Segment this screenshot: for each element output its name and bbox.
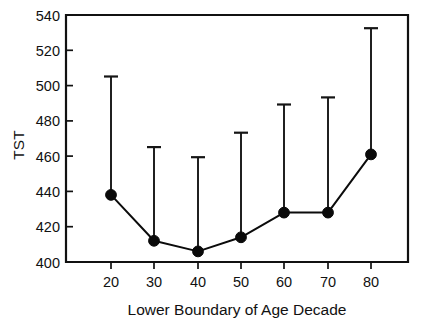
y-tick-label-420: 420 — [36, 219, 60, 235]
data-point-70[interactable] — [323, 207, 334, 218]
error-bar-50 — [234, 133, 248, 238]
x-tick-label-30: 30 — [146, 274, 162, 290]
x-tick-label-80: 80 — [363, 274, 379, 290]
data-point-30[interactable] — [149, 235, 160, 246]
y-tick-label-500: 500 — [36, 78, 60, 94]
error-bar-70 — [321, 97, 335, 212]
error-bar-20 — [104, 77, 118, 195]
x-tick-label-40: 40 — [190, 274, 206, 290]
y-tick-label-540: 540 — [36, 8, 60, 24]
y-tick-label-400: 400 — [36, 255, 60, 271]
x-tick-labels: 20 30 40 50 60 70 80 — [103, 274, 379, 290]
y-axis-title: TST — [10, 130, 27, 160]
plot-frame — [66, 15, 408, 262]
error-bars — [104, 28, 378, 251]
error-bar-40 — [191, 157, 205, 251]
plot-border — [66, 15, 408, 262]
error-bar-80 — [364, 28, 378, 154]
x-tick-label-50: 50 — [233, 274, 249, 290]
chart-figure: 540 520 500 480 460 440 420 400 20 30 40… — [0, 0, 424, 330]
y-tick-labels: 540 520 500 480 460 440 420 400 — [36, 8, 60, 271]
x-tick-label-60: 60 — [276, 274, 292, 290]
scatter-line-chart-with-error-bars: 540 520 500 480 460 440 420 400 20 30 40… — [0, 0, 424, 330]
y-tick-label-440: 440 — [36, 184, 60, 200]
data-point-20[interactable] — [106, 190, 117, 201]
x-axis-title: Lower Boundary of Age Decade — [128, 301, 347, 318]
data-point-80[interactable] — [366, 149, 377, 160]
x-tick-label-20: 20 — [103, 274, 119, 290]
y-tick-label-460: 460 — [36, 149, 60, 165]
y-tick-label-520: 520 — [36, 43, 60, 59]
data-point-40[interactable] — [193, 246, 204, 257]
error-bar-60 — [277, 105, 291, 213]
data-point-60[interactable] — [279, 207, 290, 218]
x-tick-label-70: 70 — [320, 274, 336, 290]
error-bar-30 — [147, 147, 161, 241]
y-tick-label-480: 480 — [36, 113, 60, 129]
data-point-50[interactable] — [236, 232, 247, 243]
